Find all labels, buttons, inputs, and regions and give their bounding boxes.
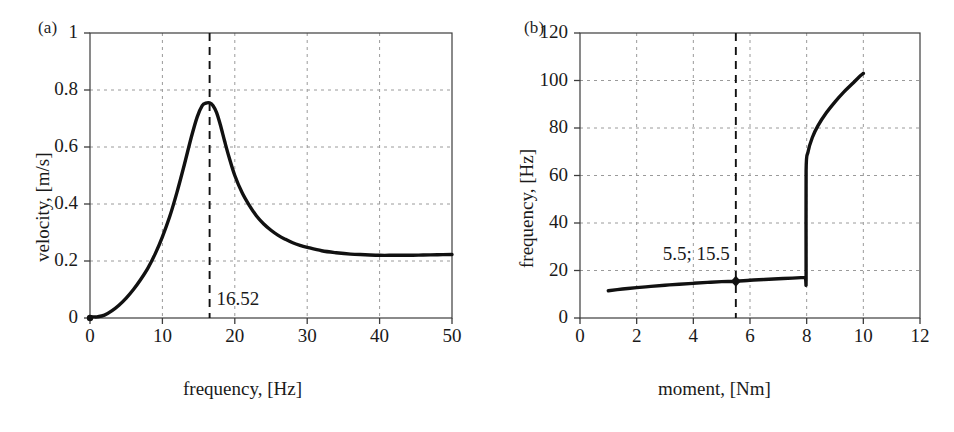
panel-b-x-tick-label: 4 bbox=[663, 325, 723, 347]
panel-a-x-tick-label: 40 bbox=[350, 325, 410, 347]
panel-a-y-tick-label: 0.6 bbox=[22, 135, 78, 157]
panel-b-y-tick-label: 0 bbox=[512, 306, 568, 328]
panel-a-y-tick-label: 0.8 bbox=[22, 78, 78, 100]
panel-b-x-tick-label: 6 bbox=[720, 325, 780, 347]
panel-a-x-axis-title: frequency, [Hz] bbox=[183, 378, 302, 400]
panel-b-y-tick-label: 20 bbox=[512, 259, 568, 281]
panel-a-x-tick-label: 50 bbox=[422, 325, 482, 347]
panel-b-x-tick-label: 8 bbox=[777, 325, 837, 347]
panel-b-x-tick-label: 10 bbox=[833, 325, 893, 347]
panel-a-y-tick-label: 1 bbox=[22, 21, 78, 43]
panel-a-x-tick-label: 10 bbox=[132, 325, 192, 347]
panel-b-y-tick-label: 120 bbox=[512, 21, 568, 43]
panel-b-x-tick-label: 2 bbox=[607, 325, 667, 347]
panel-a-x-tick-label: 20 bbox=[205, 325, 265, 347]
panel-a-plot bbox=[0, 0, 480, 432]
panel-b-x-axis-title: moment, [Nm] bbox=[658, 378, 771, 400]
panel-a-annotation: 16.52 bbox=[217, 288, 260, 310]
panel-b-y-tick-label: 40 bbox=[512, 211, 568, 233]
panel-b-y-tick-label: 100 bbox=[512, 69, 568, 91]
panel-a-y-tick-label: 0.4 bbox=[22, 192, 78, 214]
panel-b-y-tick-label: 60 bbox=[512, 164, 568, 186]
panel-a-x-tick-label: 30 bbox=[277, 325, 337, 347]
chart-panel-b: (b) frequency, [Hz] moment, [Nm] 5.5; 15… bbox=[480, 0, 954, 432]
panel-b-x-tick-label: 0 bbox=[550, 325, 610, 347]
panel-b-x-tick-label: 12 bbox=[890, 325, 950, 347]
panel-b-y-tick-label: 80 bbox=[512, 116, 568, 138]
panel-a-y-tick-label: 0 bbox=[22, 306, 78, 328]
panel-a-y-tick-label: 0.2 bbox=[22, 249, 78, 271]
figure-container: (a) velocity, [m/s] frequency, [Hz] 16.5… bbox=[0, 0, 954, 432]
panel-a-x-tick-label: 0 bbox=[60, 325, 120, 347]
chart-panel-a: (a) velocity, [m/s] frequency, [Hz] 16.5… bbox=[0, 0, 480, 432]
